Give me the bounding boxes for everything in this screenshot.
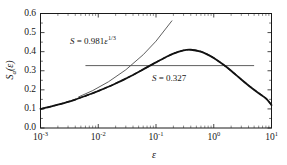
x-tick-label: 10-3 [23, 133, 59, 143]
annotation-plateau-value: 0.327 [166, 73, 186, 83]
x-tick-exponent: -1 [158, 129, 163, 136]
y-tick-label: 0.2 [12, 85, 36, 95]
annotation-power-law-coefficient: 0.981 [84, 36, 104, 46]
annotation-power-law: S = 0.981ε1/3 [70, 37, 116, 46]
y-axis-title-subscript: a [10, 71, 18, 75]
y-tick-label: 0.4 [12, 47, 36, 57]
x-tick-exponent: 1 [275, 129, 278, 136]
power-law-line [78, 21, 172, 98]
x-tick-mantissa: 10 [33, 132, 43, 142]
annotation-plateau-equals: = [157, 73, 167, 83]
x-axis-title: ε [152, 150, 156, 160]
y-axis-title-argument: (ε) [4, 60, 15, 71]
annotation-power-law-equals: = [75, 36, 85, 46]
x-tick-label: 100 [196, 133, 232, 143]
y-tick-label: 0.1 [12, 104, 36, 114]
x-tick-exponent: -2 [100, 129, 105, 136]
annotation-power-law-exponent: 1/3 [108, 34, 116, 41]
y-tick-label: 0.5 [12, 28, 36, 38]
y-axis-title-main: S [4, 74, 15, 79]
x-tick-label: 10-1 [138, 133, 174, 143]
y-axis-title: Sa(ε) [5, 43, 15, 97]
annotation-plateau: S = 0.327 [152, 74, 186, 83]
plot-frame [41, 14, 272, 129]
x-tick-mantissa: 10 [265, 132, 275, 142]
x-tick-mantissa: 10 [149, 132, 159, 142]
axis-ticks [41, 14, 272, 129]
x-tick-exponent: 0 [217, 129, 220, 136]
x-tick-label: 101 [254, 133, 287, 143]
x-tick-exponent: -3 [43, 129, 48, 136]
x-tick-label: 10-2 [80, 133, 116, 143]
figure-panel: 0.00.10.20.30.40.50.6 10-310-210-1100101… [0, 0, 286, 165]
y-tick-label: 0.6 [12, 9, 36, 19]
x-tick-mantissa: 10 [91, 132, 101, 142]
x-tick-mantissa: 10 [207, 132, 217, 142]
